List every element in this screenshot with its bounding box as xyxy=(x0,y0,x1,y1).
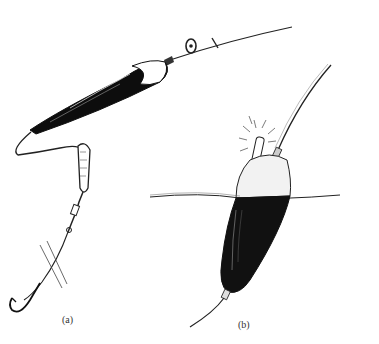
panel-label-b: (b) xyxy=(238,319,250,330)
panel-b-drawing xyxy=(150,64,340,327)
fishing-float-illustration xyxy=(0,0,379,344)
panel-label-a: (a) xyxy=(62,314,73,325)
hook-icon xyxy=(10,283,40,312)
